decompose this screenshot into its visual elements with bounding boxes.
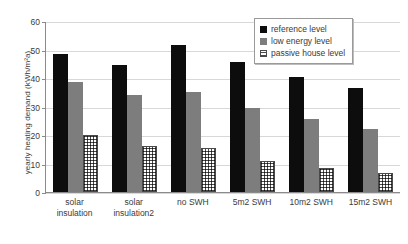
y-axis-tick-label: 30 <box>31 103 40 113</box>
bar <box>68 82 83 192</box>
bar-group <box>105 22 164 192</box>
y-axis-tick-label: 60 <box>31 17 40 27</box>
x-axis-labels: solar insulationsolar insulation2no SWH5… <box>45 197 400 219</box>
legend-swatch-icon <box>260 50 267 57</box>
x-axis-label: no SWH <box>163 197 222 219</box>
x-axis-label: 10m2 SWH <box>282 197 341 219</box>
chart-legend: reference levellow energy levelpassive h… <box>254 18 353 64</box>
bar <box>83 135 98 192</box>
bar-chart: yearly heating demand (kWh/m²a) 01020304… <box>0 0 408 244</box>
bar <box>245 108 260 192</box>
bar <box>171 45 186 192</box>
bar <box>112 65 127 192</box>
y-axis-tick-label: 10 <box>31 160 40 170</box>
bar <box>260 161 275 192</box>
x-axis-label: solar insulation2 <box>104 197 163 219</box>
x-axis-label: 15m2 SWH <box>341 197 400 219</box>
bar-group <box>164 22 223 192</box>
bar <box>319 168 334 192</box>
y-axis-tick <box>42 193 46 194</box>
legend-swatch-icon <box>260 38 267 45</box>
y-axis-tick-label: 20 <box>31 131 40 141</box>
bar <box>348 88 363 192</box>
bar <box>127 95 142 192</box>
y-axis-tick-label: 0 <box>35 188 40 198</box>
y-axis-tick-label: 40 <box>31 74 40 84</box>
legend-label: low energy level <box>271 36 332 46</box>
bar <box>378 173 393 192</box>
bar <box>186 92 201 192</box>
legend-item: low energy level <box>260 35 345 47</box>
gridline <box>46 193 400 194</box>
bar <box>230 62 245 192</box>
legend-item: reference level <box>260 23 345 35</box>
bar <box>289 77 304 192</box>
x-axis-label: 5m2 SWH <box>223 197 282 219</box>
bar <box>304 119 319 192</box>
legend-swatch-icon <box>260 26 267 33</box>
bar <box>53 54 68 192</box>
bar <box>363 129 378 192</box>
legend-label: reference level <box>271 24 327 34</box>
legend-label: passive house level <box>271 48 345 58</box>
bar <box>142 146 157 192</box>
x-axis-label: solar insulation <box>45 197 104 219</box>
bar-group <box>46 22 105 192</box>
legend-item: passive house level <box>260 47 345 59</box>
y-axis-tick-label: 50 <box>31 46 40 56</box>
bar <box>201 148 216 192</box>
